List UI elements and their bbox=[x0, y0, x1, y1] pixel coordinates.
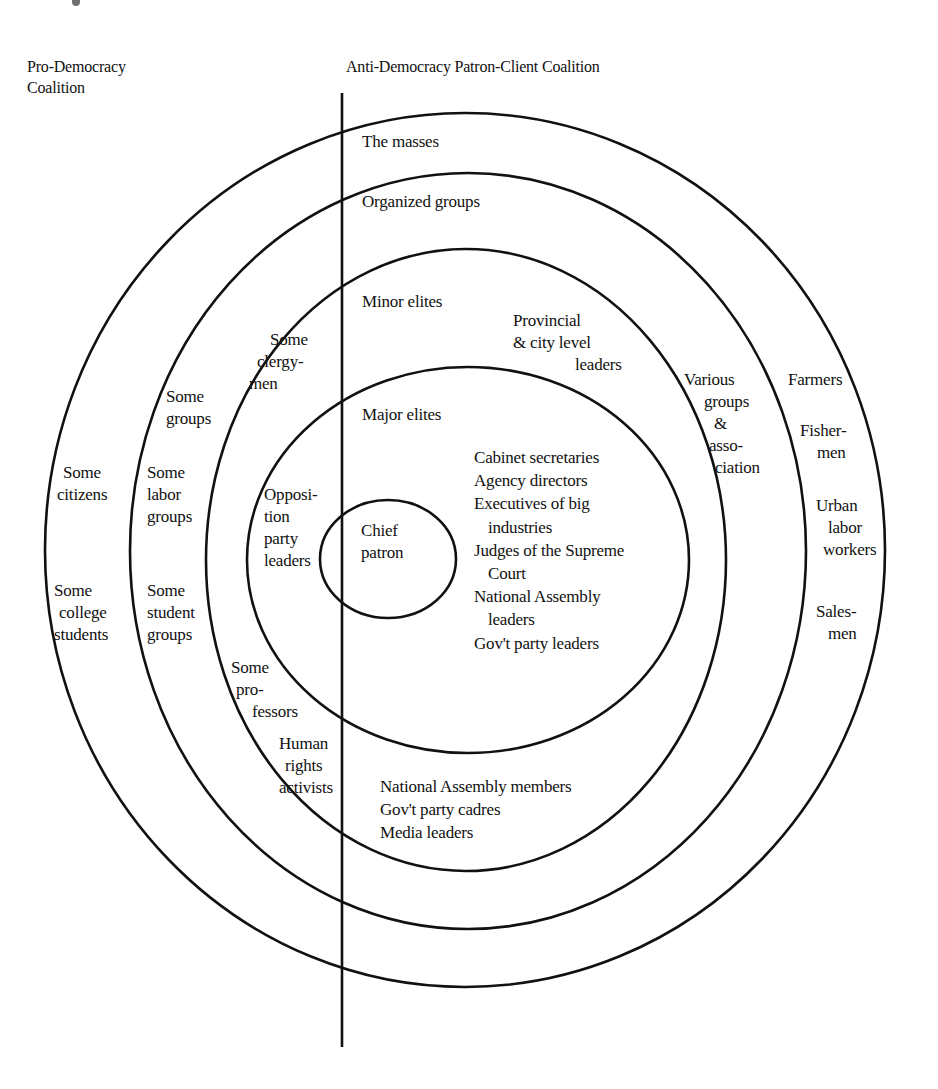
text-line: Some bbox=[249, 329, 308, 351]
label-the-masses: The masses bbox=[362, 131, 439, 153]
text-line: labor bbox=[147, 484, 192, 506]
label-human-rights-activists: Human rights activists bbox=[279, 733, 333, 799]
text-line: Some bbox=[231, 657, 298, 679]
list-item: Executives of big bbox=[474, 492, 624, 515]
text-line: Some bbox=[147, 462, 192, 484]
text-line: Some bbox=[57, 462, 107, 484]
label-chief-patron: Chief patron bbox=[361, 520, 403, 564]
text-line: citizens bbox=[57, 484, 107, 506]
label-various-groups: Various groups & asso- ciation bbox=[681, 369, 797, 479]
text-line: Chief bbox=[361, 520, 403, 542]
list-item: Court bbox=[474, 562, 624, 585]
text-line: men bbox=[816, 623, 857, 645]
label-organized-groups: Organized groups bbox=[362, 191, 480, 213]
list-item: leaders bbox=[474, 608, 624, 631]
text-line: asso- bbox=[681, 435, 797, 457]
label-some-citizens: Some citizens bbox=[57, 462, 107, 506]
header-line: Pro-Democracy bbox=[27, 56, 126, 77]
text-line: activists bbox=[279, 777, 333, 799]
anti-democracy-header: Anti-Democracy Patron-Client Coalition bbox=[346, 56, 600, 77]
text-line: Some bbox=[54, 580, 108, 602]
text-line: rights bbox=[279, 755, 333, 777]
text-line: pro- bbox=[231, 679, 298, 701]
label-some-labor-groups: Some labor groups bbox=[147, 462, 192, 528]
text-line: student bbox=[147, 602, 195, 624]
text-line: Human bbox=[279, 733, 333, 755]
text-line: college bbox=[54, 602, 108, 624]
ring-masses bbox=[45, 113, 885, 987]
list-item: National Assembly members bbox=[380, 775, 571, 798]
label-farmers: Farmers bbox=[788, 369, 842, 391]
label-major-elites: Major elites bbox=[362, 404, 441, 426]
header-line: Coalition bbox=[27, 77, 126, 98]
list-item: Gov't party cadres bbox=[380, 798, 571, 821]
text-line: groups bbox=[166, 408, 211, 430]
label-some-clergymen: Some clergy- men bbox=[249, 329, 308, 395]
text-line: leaders bbox=[513, 354, 622, 376]
text-line: men bbox=[800, 442, 846, 464]
label-some-professors: Some pro- fessors bbox=[231, 657, 298, 723]
text-line: workers bbox=[816, 539, 876, 561]
text-line: clergy- bbox=[249, 351, 308, 373]
text-line: men bbox=[249, 373, 308, 395]
list-item: National Assembly bbox=[474, 585, 624, 608]
list-minor-elite-members: National Assembly members Gov't party ca… bbox=[380, 775, 571, 844]
list-item: Judges of the Supreme bbox=[474, 539, 624, 562]
text-line: groups bbox=[147, 506, 192, 528]
list-item: Media leaders bbox=[380, 821, 571, 844]
text-line: groups bbox=[147, 624, 195, 646]
text-line: Fisher- bbox=[800, 420, 846, 442]
text-line: labor bbox=[816, 517, 876, 539]
text-line: Some bbox=[166, 386, 211, 408]
text-line: Opposi- bbox=[264, 484, 317, 506]
text-line: patron bbox=[361, 542, 403, 564]
label-salesmen: Sales- men bbox=[816, 601, 857, 645]
text-line: groups bbox=[681, 391, 797, 413]
text-line: leaders bbox=[264, 550, 317, 572]
text-line: students bbox=[54, 624, 108, 646]
text-line: Various bbox=[681, 369, 797, 391]
list-item: industries bbox=[474, 516, 624, 539]
text-line: Provincial bbox=[513, 310, 622, 332]
label-urban-labor-workers: Urban labor workers bbox=[816, 495, 876, 561]
list-major-elite-members: Cabinet secretaries Agency directors Exe… bbox=[474, 446, 624, 655]
label-some-college-students: Some college students bbox=[54, 580, 108, 646]
text-line: & city level bbox=[513, 332, 622, 354]
label-some-groups: Some groups bbox=[166, 386, 211, 430]
label-some-student-groups: Some student groups bbox=[147, 580, 195, 646]
text-line: Some bbox=[147, 580, 195, 602]
pro-democracy-header: Pro-Democracy Coalition bbox=[27, 56, 126, 98]
text-line: tion bbox=[264, 506, 317, 528]
text-line: fessors bbox=[231, 701, 298, 723]
text-line: Sales- bbox=[816, 601, 857, 623]
text-line: party bbox=[264, 528, 317, 550]
list-item: Agency directors bbox=[474, 469, 624, 492]
list-item: Gov't party leaders bbox=[474, 632, 624, 655]
label-provincial-leaders: Provincial & city level leaders bbox=[513, 310, 622, 376]
text-line: & bbox=[681, 413, 797, 435]
label-fishermen: Fisher- men bbox=[800, 420, 846, 464]
list-item: Cabinet secretaries bbox=[474, 446, 624, 469]
label-opposition-party-leaders: Opposi- tion party leaders bbox=[264, 484, 317, 572]
text-line: ciation bbox=[681, 457, 797, 479]
text-line: Urban bbox=[816, 495, 876, 517]
label-minor-elites: Minor elites bbox=[362, 291, 442, 313]
concentric-coalition-diagram bbox=[0, 0, 938, 1089]
